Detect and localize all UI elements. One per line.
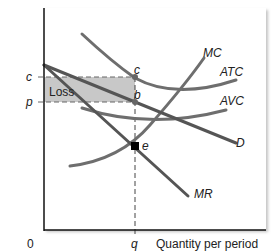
origin-label: 0: [27, 237, 34, 251]
x-axis-label: Quantity per period: [156, 237, 258, 251]
p-tick-label: p: [25, 95, 33, 109]
avc-label: AVC: [219, 94, 244, 108]
mr-label: MR: [194, 187, 213, 201]
point-e-label: e: [142, 139, 149, 153]
c-tick-label: c: [26, 70, 32, 84]
loss-minimization-chart: Dollars per unit c p Loss c b e MC ATC A…: [0, 0, 272, 252]
q-tick-label: q: [131, 237, 138, 251]
loss-label: Loss: [49, 85, 74, 99]
atc-label: ATC: [219, 65, 243, 79]
d-label: D: [236, 136, 245, 150]
point-e: [131, 142, 139, 150]
point-b-label: b: [134, 88, 141, 102]
mc-label: MC: [203, 46, 222, 60]
point-c-label: c: [134, 63, 140, 77]
